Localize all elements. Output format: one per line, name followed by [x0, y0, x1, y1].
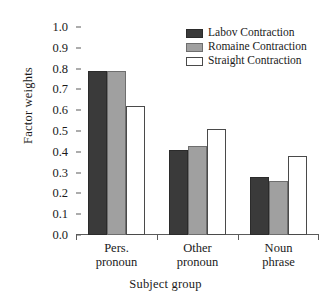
bar-romaine-group-0	[107, 71, 126, 235]
x-axis-category-label: Pers.pronoun	[96, 241, 138, 269]
legend-swatch-romaine-icon	[186, 43, 203, 52]
y-axis-tick-mark	[76, 214, 81, 215]
x-axis-category-line: phrase	[262, 255, 295, 269]
x-axis-tick-mark	[76, 235, 77, 240]
y-axis-tick-mark	[76, 68, 81, 69]
y-axis-tick-mark	[76, 151, 81, 152]
y-axis-tick-mark	[76, 47, 81, 48]
legend-label-straight: Straight Contraction	[208, 55, 302, 67]
y-axis-tick-mark	[76, 193, 81, 194]
y-axis-tick-mark	[76, 172, 81, 173]
x-axis-category-line: pronoun	[177, 255, 219, 269]
bar-straight-group-2	[288, 156, 307, 235]
x-axis-category-line: pronoun	[96, 255, 138, 269]
y-axis-tick-mark	[76, 110, 81, 111]
x-axis-title: Subject group	[0, 277, 331, 292]
bar-romaine-group-1	[188, 146, 207, 235]
y-axis-tick-mark	[76, 89, 81, 90]
y-axis-tick-label: 0.9	[52, 42, 76, 55]
y-axis-tick-label: 0.0	[52, 229, 76, 242]
y-axis-tick-label: 0.7	[52, 83, 76, 96]
legend-label-labov: Labov Contraction	[208, 27, 295, 39]
y-axis-tick-label: 0.3	[52, 166, 76, 179]
x-axis-tick-mark	[238, 235, 239, 240]
y-axis-tick-mark	[76, 131, 81, 132]
bar-straight-group-0	[126, 106, 145, 235]
bar-labov-group-0	[88, 71, 107, 235]
legend-item-straight: Straight Contraction	[186, 54, 307, 68]
x-axis-category-label: Nounphrase	[262, 241, 295, 269]
bar-chart-figure: Factor weights 1.00.90.80.70.60.50.40.30…	[0, 0, 331, 304]
legend-swatch-labov-icon	[186, 29, 203, 38]
x-axis-tick-mark	[157, 235, 158, 240]
y-axis-tick-mark	[76, 27, 81, 28]
legend-item-romaine: Romaine Contraction	[186, 40, 307, 54]
y-axis-title: Factor weights	[21, 36, 36, 176]
x-axis-category-line: Noun	[262, 241, 295, 255]
x-axis-category-line: Other	[177, 241, 219, 255]
bar-labov-group-1	[169, 150, 188, 235]
legend: Labov Contraction Romaine Contraction St…	[186, 26, 307, 68]
bar-labov-group-2	[250, 177, 269, 235]
y-axis-tick-label: 0.8	[52, 62, 76, 75]
bar-romaine-group-2	[269, 181, 288, 235]
y-axis-tick-label: 0.1	[52, 208, 76, 221]
y-axis-tick-label: 0.4	[52, 146, 76, 159]
x-axis-tick-mark	[318, 235, 319, 240]
y-axis-tick-label: 0.6	[52, 104, 76, 117]
y-axis-tick-label: 1.0	[52, 21, 76, 34]
x-axis-category-line: Pers.	[96, 241, 138, 255]
legend-swatch-straight-icon	[186, 57, 203, 66]
legend-label-romaine: Romaine Contraction	[208, 41, 307, 53]
legend-item-labov: Labov Contraction	[186, 26, 307, 40]
bar-straight-group-1	[207, 129, 226, 235]
y-axis-tick-label: 0.5	[52, 125, 76, 138]
y-axis-tick-label: 0.2	[52, 187, 76, 200]
x-axis-category-label: Otherpronoun	[177, 241, 219, 269]
